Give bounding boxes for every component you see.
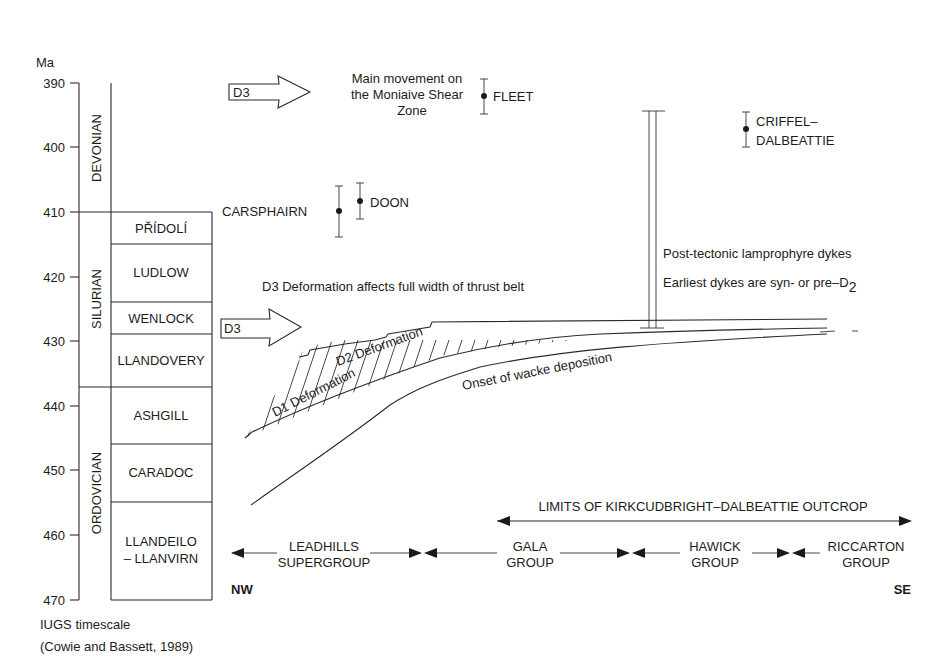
d3-top-arrow-label: D3 — [233, 85, 250, 100]
se-direction-label: SE — [894, 582, 912, 597]
hawick-label-1: HAWICK — [689, 539, 741, 554]
tectonic-timeline-diagram: Ma 390 400 410 420 430 440 450 460 470 I… — [0, 0, 945, 663]
timescale-caption-1: IUGS timescale — [40, 617, 130, 632]
carsphairn-label: CARSPHAIRN — [222, 204, 307, 219]
tick-390: 390 — [43, 76, 65, 91]
nw-direction-label: NW — [231, 582, 253, 597]
hawick-label-2: GROUP — [691, 555, 739, 570]
timescale-caption-2: (Cowie and Bassett, 1989) — [40, 639, 193, 654]
kirkcudbright-outcrop-limits: LIMITS OF KIRKCUDBRIGHT–DALBEATTIE OUTCR… — [497, 499, 912, 526]
gala-label-2: GROUP — [506, 555, 554, 570]
dykes-label-2: Earliest dykes are syn- or pre–D2 — [663, 275, 857, 295]
svg-text:Main movement on: Main movement on — [352, 71, 463, 86]
tick-410: 410 — [43, 205, 65, 220]
d2-deformation-label: D2 Deformation — [334, 324, 425, 369]
d3-mid-arrow-label: D3 — [224, 321, 241, 336]
epoch-caradoc: CARADOC — [128, 465, 193, 480]
epoch-pridoli: PŘÍDOLÍ — [135, 221, 187, 236]
stratigraphic-column: DEVONIAN SILURIAN ORDOVICIAN PŘÍDOLÍ LUD… — [79, 83, 212, 600]
fleet-age-bar: FLEET — [480, 79, 534, 114]
axis-unit-label: Ma — [36, 55, 55, 70]
axis-ticks — [70, 83, 79, 600]
leadhills-label-2: SUPERGROUP — [278, 555, 370, 570]
d3-top-arrow: D3 — [229, 76, 310, 108]
riccarton-label-1: RICCARTON — [828, 539, 905, 554]
epoch-ashgill: ASHGILL — [134, 408, 189, 423]
epoch-wenlock: WENLOCK — [128, 311, 194, 326]
svg-text:Zone: Zone — [397, 103, 427, 118]
epoch-llanvirn: – LLANVIRN — [124, 551, 198, 566]
d3-full-width-note: D3 Deformation affects full width of thr… — [262, 279, 524, 294]
doon-label: DOON — [370, 195, 409, 210]
carsphairn-age-bar: CARSPHAIRN — [222, 186, 343, 237]
era-silurian: SILURIAN — [89, 269, 104, 329]
criffel-dalbeattie-age-bar: CRIFFEL– DALBEATTIE — [742, 112, 835, 148]
epoch-llandovery: LLANDOVERY — [117, 353, 205, 368]
tick-450: 450 — [43, 463, 65, 478]
riccarton-label-2: GROUP — [842, 555, 890, 570]
d3-mid-arrow: D3 — [221, 309, 301, 346]
era-ordovician: ORDOVICIAN — [89, 452, 104, 534]
deformation-wedge: D1 Deformation D2 Deformation — [240, 319, 858, 460]
criffel-label-2: DALBEATTIE — [756, 133, 835, 148]
tick-460: 460 — [43, 528, 65, 543]
tick-430: 430 — [43, 334, 65, 349]
epoch-ludlow: LUDLOW — [133, 265, 189, 280]
tick-470: 470 — [43, 593, 65, 608]
tick-440: 440 — [43, 399, 65, 414]
fleet-label: FLEET — [493, 89, 534, 104]
leadhills-label-1: LEADHILLS — [289, 539, 359, 554]
wacke-onset-label: Onset of wacke deposition — [461, 349, 614, 393]
era-devonian: DEVONIAN — [89, 114, 104, 182]
svg-text:the Moniaive Shear: the Moniaive Shear — [351, 87, 464, 102]
outcrop-limits-label: LIMITS OF KIRKCUDBRIGHT–DALBEATTIE OUTCR… — [538, 499, 867, 514]
moniaive-shear-zone-note: Main movement on the Moniaive Shear Zone — [351, 71, 464, 118]
criffel-label-1: CRIFFEL– — [756, 114, 818, 129]
tick-400: 400 — [43, 140, 65, 155]
gala-label-1: GALA — [513, 539, 548, 554]
dykes-label-1: Post-tectonic lamprophyre dykes — [663, 246, 852, 261]
group-extent-bar: LEADHILLS SUPERGROUP GALA GROUP HAWICK G… — [231, 539, 911, 597]
doon-age-bar: DOON — [356, 183, 409, 219]
tick-420: 420 — [43, 270, 65, 285]
epoch-llandeilo: LLANDEILO — [125, 534, 197, 549]
